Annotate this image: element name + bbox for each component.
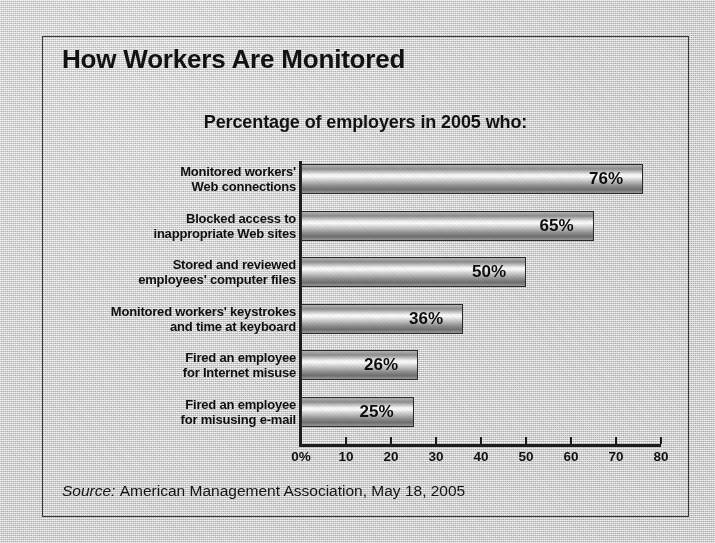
bar-row: Blocked access toinappropriate Web sites… — [0, 211, 715, 255]
category-label-line: and time at keyboard — [66, 319, 296, 334]
bar-value-label: 36% — [409, 304, 443, 334]
bar-row: Fired an employeefor Internet misuse26% — [0, 350, 715, 394]
category-label-line: Monitored workers' — [66, 164, 296, 179]
bar-row: Stored and reviewedemployees' computer f… — [0, 257, 715, 301]
x-tick-label-40: 40 — [461, 449, 501, 464]
bar-value-label: 25% — [360, 397, 394, 427]
bar-row: Monitored workers'Web connections76% — [0, 164, 715, 208]
category-label-line: Monitored workers' keystrokes — [66, 304, 296, 319]
x-tick-label-80: 80 — [641, 449, 681, 464]
bar-value-label: 50% — [472, 257, 506, 287]
x-tick-label-50: 50 — [506, 449, 546, 464]
bar-category-label: Fired an employeefor Internet misuse — [66, 350, 296, 380]
category-label-line: for misusing e-mail — [66, 412, 296, 427]
category-label-line: Fired an employee — [66, 350, 296, 365]
bar — [301, 350, 418, 380]
bar-value-label: 65% — [540, 211, 574, 241]
x-tick-label-30: 30 — [416, 449, 456, 464]
x-tick-label-20: 20 — [371, 449, 411, 464]
x-axis-line — [299, 444, 661, 447]
category-label-line: Fired an employee — [66, 397, 296, 412]
bar-category-label: Stored and reviewedemployees' computer f… — [66, 257, 296, 287]
source-body: American Management Association, May 18,… — [120, 482, 466, 499]
x-tick-label-0: 0% — [281, 449, 321, 464]
category-label-line: inappropriate Web sites — [66, 226, 296, 241]
source-note: Source: American Management Association,… — [62, 482, 465, 500]
bar-row: Monitored workers' keystrokesand time at… — [0, 304, 715, 348]
category-label-line: Stored and reviewed — [66, 257, 296, 272]
bar — [301, 397, 414, 427]
x-tick-label-10: 10 — [326, 449, 366, 464]
plot-area: 0%1020304050607080 Monitored workers'Web… — [0, 0, 715, 543]
bar-value-label: 26% — [364, 350, 398, 380]
chart-page: How Workers Are Monitored Percentage of … — [0, 0, 715, 543]
bar-category-label: Fired an employeefor misusing e-mail — [66, 397, 296, 427]
x-tick-label-70: 70 — [596, 449, 636, 464]
category-label-line: Web connections — [66, 179, 296, 194]
bar-category-label: Monitored workers'Web connections — [66, 164, 296, 194]
bar-category-label: Monitored workers' keystrokesand time at… — [66, 304, 296, 334]
bar-category-label: Blocked access toinappropriate Web sites — [66, 211, 296, 241]
bar-row: Fired an employeefor misusing e-mail25% — [0, 397, 715, 441]
category-label-line: for Internet misuse — [66, 365, 296, 380]
category-label-line: Blocked access to — [66, 211, 296, 226]
bar-value-label: 76% — [589, 164, 623, 194]
category-label-line: employees' computer files — [66, 272, 296, 287]
source-prefix: Source: — [62, 482, 115, 499]
x-tick-label-60: 60 — [551, 449, 591, 464]
